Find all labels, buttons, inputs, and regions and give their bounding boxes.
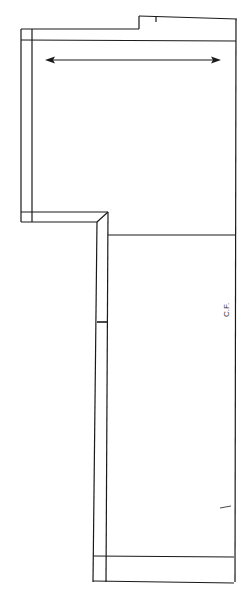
pattern-diagram: C.F. [0,0,249,598]
notch-marks [97,17,231,508]
pattern-outline [21,16,237,583]
seam-lines [21,29,236,582]
grainline-arrow-icon [45,57,221,64]
center-front-label: C.F. [222,303,231,317]
right-notch [220,506,231,508]
